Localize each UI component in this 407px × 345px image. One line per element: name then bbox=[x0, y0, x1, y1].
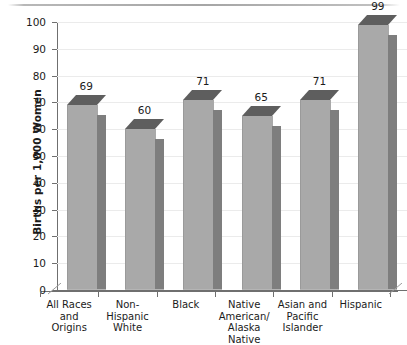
bar-side-face bbox=[330, 110, 339, 290]
x-category-label: Asian andPacificIslander bbox=[270, 299, 336, 334]
y-tick-label: 50 bbox=[20, 150, 46, 162]
x-category-label: Black bbox=[153, 299, 219, 311]
y-tick-label: 70 bbox=[20, 96, 46, 108]
y-tick-label: 30 bbox=[20, 204, 46, 216]
baseline-perspective-left bbox=[48, 280, 62, 299]
bar-top-face bbox=[358, 15, 397, 25]
y-tick-label: 90 bbox=[20, 43, 46, 55]
x-category-label-line: Asian and bbox=[270, 299, 336, 311]
bar-column bbox=[67, 105, 106, 290]
x-category-label-line: Native bbox=[211, 299, 277, 311]
bar-side-face bbox=[155, 139, 164, 290]
bar-column bbox=[183, 100, 222, 290]
x-category-label-line: Hispanic bbox=[328, 299, 394, 311]
bar-value-label: 71 bbox=[179, 75, 227, 87]
bar-top-face bbox=[125, 119, 164, 129]
bar-base-line bbox=[183, 289, 222, 290]
bar-value-label: 99 bbox=[354, 0, 402, 12]
bar-side-face bbox=[213, 110, 222, 290]
plot-area: 696071657199 bbox=[57, 22, 407, 290]
x-category-label-line: Islander bbox=[270, 322, 336, 334]
x-category-label-line: Origins bbox=[36, 322, 102, 334]
bar-column bbox=[242, 116, 281, 290]
bar-column bbox=[300, 100, 339, 290]
y-tick-label: 40 bbox=[20, 177, 46, 189]
y-tick-label: 100 bbox=[20, 16, 46, 28]
bar-base-line bbox=[125, 289, 164, 290]
x-axis-line bbox=[40, 291, 398, 292]
bar-front-face bbox=[125, 129, 156, 290]
bar-side-face bbox=[272, 126, 281, 290]
x-tick-mark bbox=[98, 291, 99, 297]
bar-top-face bbox=[242, 106, 281, 116]
y-tick-label: 10 bbox=[20, 257, 46, 269]
x-category-label-line: Native bbox=[211, 334, 277, 345]
y-tick-label: 60 bbox=[20, 123, 46, 135]
y-tick-label: 0 bbox=[20, 284, 46, 296]
scan-artifact-line bbox=[8, 4, 400, 6]
x-category-label-line: Alaska bbox=[211, 322, 277, 334]
bar-base-line bbox=[300, 289, 339, 290]
x-category-label-line: All Races bbox=[36, 299, 102, 311]
y-tick-label: 80 bbox=[20, 70, 46, 82]
bar-side-face bbox=[388, 35, 397, 290]
x-category-label: Non-HispanicWhite bbox=[95, 299, 161, 334]
x-category-label-line: Pacific bbox=[270, 311, 336, 323]
bar-top-face bbox=[300, 90, 339, 100]
x-category-label: NativeAmerican/AlaskaNative bbox=[211, 299, 277, 345]
bar-column bbox=[358, 25, 397, 290]
bar-front-face bbox=[242, 116, 273, 290]
x-category-label-line: and bbox=[36, 311, 102, 323]
bar-base-line bbox=[242, 289, 281, 290]
baseline-perspective-right bbox=[388, 280, 404, 299]
x-tick-mark bbox=[332, 291, 333, 297]
x-tick-mark bbox=[157, 291, 158, 297]
x-category-label-line: White bbox=[95, 322, 161, 334]
x-category-label-line: American/ bbox=[211, 311, 277, 323]
bar-top-face bbox=[183, 90, 222, 100]
bar-value-label: 60 bbox=[121, 104, 169, 116]
x-category-label-line: Hispanic bbox=[95, 311, 161, 323]
bar-value-label: 69 bbox=[62, 80, 110, 92]
bar-front-face bbox=[358, 25, 389, 290]
bar-front-face bbox=[183, 100, 214, 290]
bar-front-face bbox=[300, 100, 331, 290]
y-tick-label: 20 bbox=[20, 230, 46, 242]
bar-value-label: 65 bbox=[237, 91, 285, 103]
bar-base-line bbox=[67, 289, 106, 290]
bar-top-face bbox=[67, 95, 106, 105]
bar-front-face bbox=[67, 105, 98, 290]
x-category-label: Hispanic bbox=[328, 299, 394, 311]
bar-column bbox=[125, 129, 164, 290]
x-tick-mark bbox=[40, 291, 41, 297]
x-category-label-line: Non- bbox=[95, 299, 161, 311]
x-category-label-line: Black bbox=[153, 299, 219, 311]
bar-side-face bbox=[97, 115, 106, 290]
x-category-label: All RacesandOrigins bbox=[36, 299, 102, 334]
x-tick-mark bbox=[215, 291, 216, 297]
gridline bbox=[57, 290, 407, 291]
x-tick-mark bbox=[273, 291, 274, 297]
bar-value-label: 71 bbox=[296, 75, 344, 87]
